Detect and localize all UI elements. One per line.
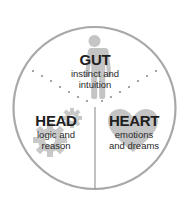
head-title: HEAD — [30, 113, 82, 128]
gut-line2: intuition — [59, 80, 131, 91]
head-line1: logic and — [30, 130, 82, 141]
head-line2: reason — [30, 141, 82, 152]
gut-line1: instinct and — [59, 69, 131, 80]
diagram-canvas — [0, 0, 189, 205]
heart-line2: and dreams — [102, 141, 166, 152]
section-gut: GUT instinct and intuition — [59, 52, 131, 90]
heart-line1: emotions — [102, 130, 166, 141]
gut-title: GUT — [59, 52, 131, 67]
heart-title: HEART — [102, 113, 166, 128]
section-heart: HEART emotions and dreams — [102, 113, 166, 151]
section-head: HEAD logic and reason — [30, 113, 82, 151]
